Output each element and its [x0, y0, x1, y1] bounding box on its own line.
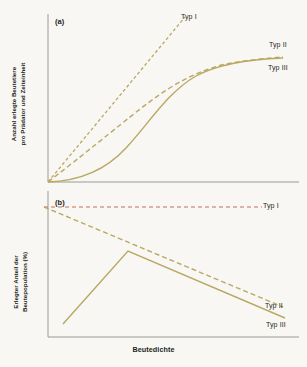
panel-b-series-typ2 — [44, 207, 283, 307]
panel-b-y-axis-label-line2: Beutepopulation (%) — [21, 227, 30, 337]
panel-b-letter: (b) — [55, 198, 65, 207]
panel-b-y-axis-label-line1: Erlegter Anteil der — [12, 227, 21, 337]
panel-b-series-typ3 — [63, 251, 285, 324]
panel-b-label-typ3: Typ III — [266, 321, 286, 328]
panel-a-series-typ2 — [48, 57, 283, 182]
panel-a-y-axis-label-line1: Anzahl erlegte Beutetiere — [10, 49, 19, 159]
figure-container: (a) Typ I Typ II Typ III Anzahl erlegte … — [0, 0, 307, 367]
panel-b-label-typ2: Typ II — [265, 302, 283, 309]
x-axis-label: Beutedichte — [0, 345, 307, 354]
panel-a-plot — [0, 0, 307, 190]
panel-a-y-axis-label: Anzahl erlegte Beutetiere pro Prädator u… — [10, 49, 28, 159]
panel-a-label-typ1: Typ I — [181, 13, 197, 20]
panel-a-label-typ2: Typ II — [269, 41, 287, 48]
panel-b-label-typ1: Typ I — [263, 202, 279, 209]
panel-a-y-axis-label-line2: pro Prädator und Zeiteinheit — [19, 49, 28, 159]
panel-a-series-typ3 — [48, 58, 283, 182]
panel-a-label-typ3: Typ III — [268, 64, 288, 71]
panel-a: (a) Typ I Typ II Typ III Anzahl erlegte … — [0, 0, 307, 190]
panel-b-plot — [0, 185, 307, 367]
panel-b: (b) Typ I Typ II Typ III Erlegter Anteil… — [0, 185, 307, 367]
panel-a-letter: (a) — [55, 17, 64, 26]
panel-b-y-axis-label: Erlegter Anteil der Beutepopulation (%) — [12, 227, 30, 337]
